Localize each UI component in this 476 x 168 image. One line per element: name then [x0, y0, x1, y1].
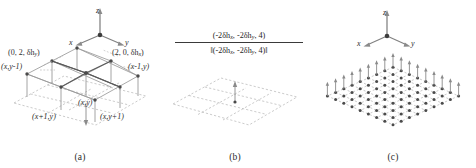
grid-node	[359, 109, 362, 112]
grid-node	[416, 105, 419, 108]
grid-node	[392, 102, 395, 105]
grid-node	[408, 80, 411, 83]
grid-node	[416, 98, 419, 101]
grid-node	[351, 98, 354, 101]
grid-node	[383, 77, 386, 80]
grid-node	[441, 102, 444, 105]
grid-node	[375, 87, 378, 90]
caption-a: (a)	[0, 152, 160, 162]
axis-label-z-c: z	[383, 9, 386, 17]
grid-node	[367, 113, 370, 116]
grid-node	[400, 113, 403, 116]
axis-label-z-a: z	[96, 7, 99, 15]
grid-node	[342, 95, 345, 98]
axis-triad-c	[364, 10, 411, 47]
axis-label-x-a: x	[69, 39, 73, 47]
figure-container: (0, 2, δhy) (2, 0, δhx) (x,y-1) (x-1,y) …	[0, 0, 476, 168]
grid-node	[383, 98, 386, 101]
grid-node	[367, 98, 370, 101]
label-bottom-right: (x,y+1)	[100, 113, 124, 121]
axis-label-y-c: y	[411, 40, 415, 48]
grid-node	[375, 95, 378, 98]
grid-node	[424, 95, 427, 98]
grid-node	[408, 102, 411, 105]
center-normal-b	[233, 81, 237, 104]
grid-node	[367, 105, 370, 108]
grid-node	[408, 116, 411, 119]
grid-node	[383, 120, 386, 123]
grid-node	[400, 84, 403, 87]
grid-node	[334, 98, 337, 101]
caption-b: (b)	[155, 152, 315, 162]
grid-node	[441, 95, 444, 98]
normal-formula: (-2δhx, -2δhy, 4) ‖(-2δhx, -2δhy, 4)‖	[169, 30, 309, 56]
grid-node	[400, 105, 403, 108]
grid-node	[392, 73, 395, 76]
grid-node	[392, 116, 395, 119]
formula-denominator: ‖(-2δhx, -2δhy, 4)‖	[169, 44, 309, 56]
grid-node	[392, 109, 395, 112]
grid-node	[408, 109, 411, 112]
grid-node	[424, 109, 427, 112]
panel-c-graphic	[310, 0, 476, 140]
label-left-mid: (x,y-1)	[1, 63, 22, 71]
grid-node	[392, 87, 395, 90]
panel-b: (-2δhx, -2δhy, 4) ‖(-2δhx, -2δhy, 4)‖ (b…	[155, 0, 315, 168]
dense-grid-c	[326, 53, 461, 126]
grid-node	[416, 91, 419, 94]
grid-node	[367, 84, 370, 87]
grid-node	[383, 84, 386, 87]
grid-node	[359, 95, 362, 98]
label-center: (x,y)	[78, 99, 92, 107]
grid-node	[416, 84, 419, 87]
grid-node	[351, 105, 354, 108]
grid-node	[433, 105, 436, 108]
grid-node	[383, 105, 386, 108]
grid-node	[424, 102, 427, 105]
fraction-bar	[175, 42, 303, 43]
grid-node	[375, 109, 378, 112]
grid-node	[400, 91, 403, 94]
panel-b-graphic	[155, 62, 315, 142]
grid-node	[367, 91, 370, 94]
grid-node	[408, 87, 411, 90]
grid-node	[392, 80, 395, 83]
grid-node	[400, 120, 403, 123]
grid-node	[359, 102, 362, 105]
grid-node	[433, 91, 436, 94]
grid-node	[375, 116, 378, 119]
panel-c: z x y (c)	[310, 0, 476, 168]
label-right-mid: (x-1,y)	[128, 63, 149, 71]
grid-node	[416, 113, 419, 116]
panel-a: (0, 2, δhy) (2, 0, δhx) (x,y-1) (x-1,y) …	[0, 0, 160, 168]
grid-node	[400, 98, 403, 101]
grid-node	[392, 95, 395, 98]
label-top-right: (2, 0, δhx)	[112, 49, 144, 57]
grid-node	[433, 98, 436, 101]
grid-node	[392, 123, 395, 126]
grid-node	[424, 87, 427, 90]
label-top-left: (0, 2, δhy)	[8, 49, 40, 57]
grid-node	[449, 98, 452, 101]
grid-node	[359, 87, 362, 90]
caption-c: (c)	[310, 152, 476, 162]
grid-node	[383, 113, 386, 116]
grid-node	[375, 102, 378, 105]
grid-node	[408, 95, 411, 98]
label-bottom-left: (x+1,y)	[32, 113, 56, 121]
grid-node	[400, 77, 403, 80]
axis-label-y-a: y	[125, 39, 129, 47]
grid-node	[342, 102, 345, 105]
grid-node	[351, 91, 354, 94]
axis-triad-a	[76, 8, 125, 46]
grid-node	[375, 80, 378, 83]
formula-numerator: (-2δhx, -2δhy, 4)	[169, 30, 309, 42]
axis-label-x-c: x	[357, 40, 361, 48]
grid-node	[383, 91, 386, 94]
